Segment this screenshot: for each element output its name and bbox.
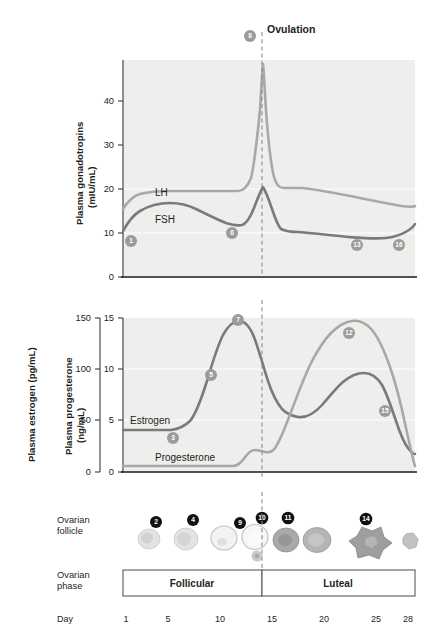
marker-label: 5 [209,371,213,378]
phase-label-follicular: Follicular [170,578,215,589]
gonadotropin-axis-title-line1: Plasma gonadotropins [74,122,85,225]
progesterone-ytick-label-10: 10 [104,364,114,374]
ovum-released [252,551,263,562]
marker-label: 3 [171,434,175,441]
row-ovarian-phase: Ovarian phase Follicular Luteal [57,570,415,596]
row-day-axis: Day 1 5 10 15 20 25 28 [57,614,413,624]
day-tick-10: 10 [215,614,225,624]
lh-label: LH [155,187,168,198]
day-tick-15: 15 [267,614,277,624]
marker-label: 16 [395,241,403,248]
marker-label: 8 [248,32,252,39]
progesterone-ytick-label-5: 5 [109,415,114,425]
follicle-marker-4: 4 [187,514,199,526]
panel-steroids: 0 50 100 150 Plasma estrogen (pg/mL) 0 5… [26,313,417,477]
gonadotropin-marker-8: 8 [244,30,256,42]
phase-label-luteal: Luteal [323,578,353,589]
marker-label: 12 [345,329,353,336]
day-row-label: Day [57,614,74,624]
marker-label: 7 [236,316,240,323]
menstrual-cycle-figure: 0 10 20 30 40 Plasma gonadotropins (mIU/… [0,0,441,639]
gonadotropin-marker-16: 16 [393,239,405,251]
gonadotropin-ytick-10: 10 [104,228,114,238]
day-tick-25: 25 [371,614,381,624]
corpus-luteum-mature [303,528,331,553]
phase-row-label-line1: Ovarian [57,570,90,580]
gonadotropin-axis-title-line2: (mIU/mL) [86,166,97,208]
steroid-marker-7: 7 [232,314,244,326]
progesterone-label: Progesterone [155,452,215,463]
marker-label: 6 [230,229,234,236]
marker-label: 4 [191,516,195,523]
ovulation-label: Ovulation [267,23,315,35]
gonadotropin-marker-1: 1 [125,235,137,247]
estrogen-ytick-label-0: 0 [86,467,91,477]
steroid-marker-15: 15 [379,405,391,417]
panel-gonadotropins: 0 10 20 30 40 Plasma gonadotropins (mIU/… [74,23,417,282]
estrogen-axis-title: Plasma estrogen (pg/mL) [26,347,37,462]
follicle-row-label-line1: Ovarian [57,515,90,525]
progesterone-ytick-label-15: 15 [104,313,114,323]
follicle-row-label-line2: follicle [57,526,83,536]
marker-label: 1 [129,237,133,244]
progesterone-axis-title-line2: (ng/mL) [75,408,86,443]
follicle-stage-4-preovulatory [242,525,268,550]
marker-label: 15 [381,407,389,414]
follicle-marker-14: 14 [360,513,373,526]
day-tick-5: 5 [165,614,170,624]
steroid-marker-3: 3 [167,432,179,444]
follicle-stage-3 [211,526,237,550]
progesterone-ytick-label-0: 0 [109,467,114,477]
gonadotropin-marker-6: 6 [226,227,238,239]
day-tick-28: 28 [403,614,413,624]
follicle-stage-1 [138,529,160,549]
gonadotropin-ytick-30: 30 [104,140,114,150]
gonadotropin-ytick-20: 20 [104,184,114,194]
row-ovarian-follicle: Ovarian follicle [57,512,418,562]
gonadotropin-plot-background [123,60,415,277]
fsh-label: FSH [155,214,175,225]
estrogen-label: Estrogen [130,415,170,426]
marker-label: 11 [285,514,292,521]
steroid-marker-5: 5 [205,369,217,381]
marker-label: 13 [353,241,361,248]
estrogen-ytick-label-150: 150 [75,313,91,323]
marker-label: 14 [362,515,370,522]
estrogen-ytick-label-100: 100 [75,364,91,374]
follicle-marker-9: 9 [234,517,246,529]
gonadotropin-marker-13: 13 [351,239,363,251]
progesterone-axis-title-line1: Plasma progesterone [63,357,74,455]
corpus-luteum-early [273,528,299,552]
marker-label: 2 [154,518,158,525]
steroid-plot-background [123,318,415,472]
follicle-marker-2: 2 [150,516,162,528]
steroid-marker-12: 12 [343,327,355,339]
day-tick-20: 20 [319,614,329,624]
corpus-luteum-regressing [349,527,392,559]
gonadotropin-ytick-40: 40 [104,96,114,106]
corpus-albicans [403,533,418,549]
day-tick-1: 1 [123,614,128,624]
gonadotropin-ytick-0: 0 [109,272,114,282]
marker-label: 9 [238,519,242,526]
follicle-stage-2 [174,528,198,550]
phase-row-label-line2: phase [57,581,82,591]
follicle-marker-11: 11 [282,512,295,525]
